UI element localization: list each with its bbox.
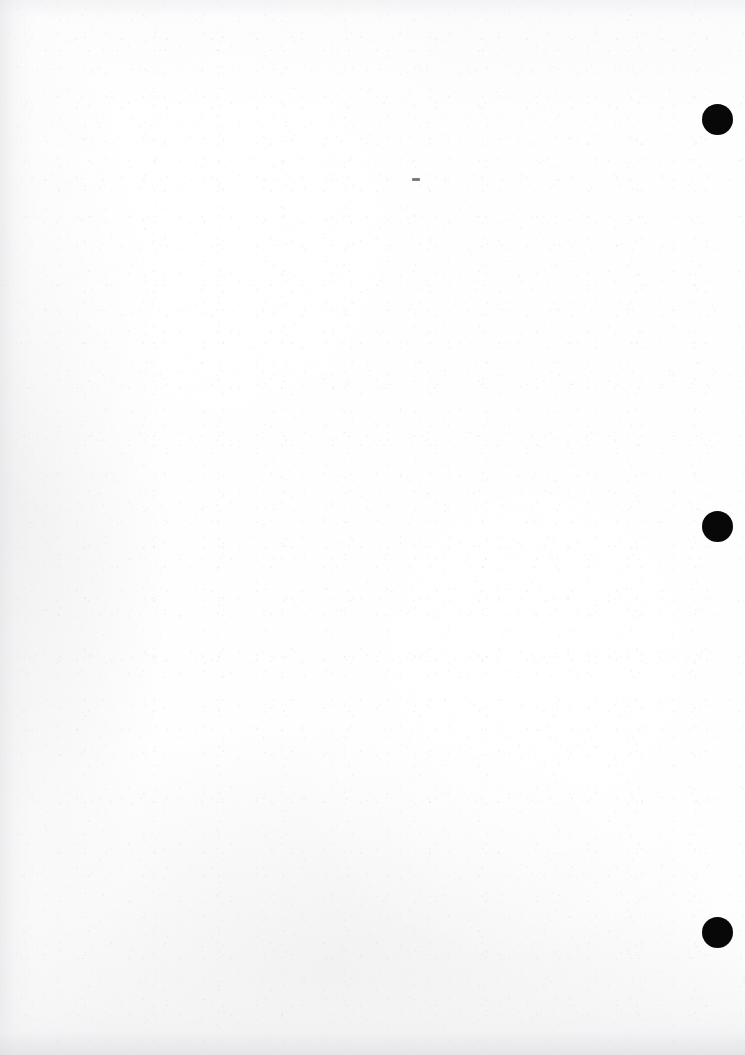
speck-upper-center	[412, 178, 420, 181]
registration-dot-bottom	[702, 917, 733, 948]
bottom-edge-shading	[0, 1009, 745, 1055]
scanned-page	[0, 0, 745, 1055]
registration-dot-middle	[702, 511, 733, 542]
top-edge-shading	[0, 0, 745, 18]
registration-dot-top	[702, 104, 733, 135]
left-edge-shading	[0, 0, 34, 1055]
page-content-area	[40, 40, 660, 1000]
